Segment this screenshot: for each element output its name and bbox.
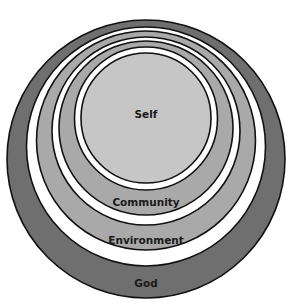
label-self: Self [135, 108, 158, 120]
label-god: God [134, 277, 157, 289]
label-environment: Environment [108, 234, 184, 246]
label-community: Community [112, 196, 179, 208]
nested-circles-diagram: Self Community Environment God [0, 0, 293, 305]
